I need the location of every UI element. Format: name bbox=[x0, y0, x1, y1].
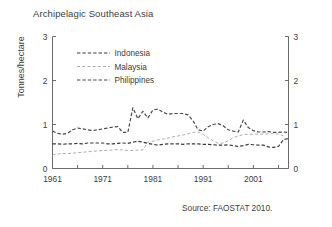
svg-text:1: 1 bbox=[43, 120, 48, 130]
chart-figure: Archipelagic Southeast Asia Tonnes/hecta… bbox=[0, 0, 332, 227]
svg-text:2: 2 bbox=[43, 76, 48, 86]
svg-text:0: 0 bbox=[294, 164, 299, 174]
svg-text:1991: 1991 bbox=[194, 174, 213, 184]
plot-area: 0123 0123 19611971198119912001 Indonesia… bbox=[0, 0, 332, 227]
axes bbox=[53, 37, 289, 169]
chart-legend: IndonesiaMalaysiaPhilippines bbox=[77, 49, 154, 85]
svg-text:0: 0 bbox=[43, 164, 48, 174]
svg-text:1: 1 bbox=[294, 120, 299, 130]
svg-text:1981: 1981 bbox=[144, 174, 163, 184]
svg-text:Malaysia: Malaysia bbox=[115, 63, 148, 72]
svg-text:Indonesia: Indonesia bbox=[115, 49, 151, 58]
y-axis-left-ticks: 0123 bbox=[43, 32, 56, 174]
source-note: Source: FAOSTAT 2010. bbox=[182, 203, 272, 213]
x-axis-ticks: 19611971198119912001 bbox=[43, 165, 278, 184]
svg-text:Philippines: Philippines bbox=[115, 76, 155, 85]
svg-text:2001: 2001 bbox=[244, 174, 263, 184]
svg-text:3: 3 bbox=[294, 32, 299, 42]
svg-text:3: 3 bbox=[43, 32, 48, 42]
svg-text:2: 2 bbox=[294, 76, 299, 86]
data-series bbox=[53, 108, 289, 155]
y-axis-right-ticks: 0123 bbox=[285, 32, 299, 174]
svg-text:1961: 1961 bbox=[43, 174, 62, 184]
svg-text:1971: 1971 bbox=[93, 174, 112, 184]
